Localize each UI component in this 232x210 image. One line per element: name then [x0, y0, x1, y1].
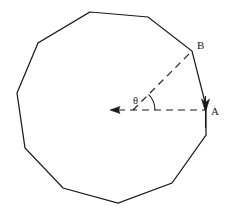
label-angle-theta: θ — [133, 96, 138, 107]
label-vertex-b: B — [197, 40, 204, 51]
dashed-radius-to-b — [133, 53, 190, 110]
left-arrowhead-icon — [110, 107, 120, 114]
polygon-outline — [17, 12, 206, 203]
angle-arc — [149, 94, 156, 110]
label-vertex-a: A — [211, 106, 219, 117]
figure-canvas — [0, 0, 232, 210]
geometry-figure: A B θ — [0, 0, 232, 210]
